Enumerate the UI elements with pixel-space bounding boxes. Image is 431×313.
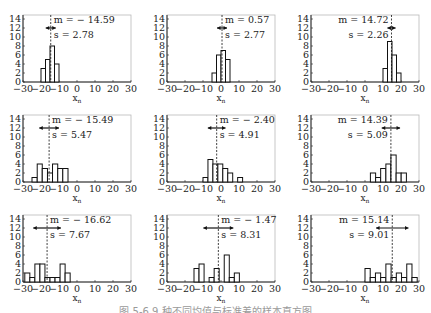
histogram-bar	[383, 69, 388, 83]
histogram-bar	[391, 155, 396, 182]
histogram-bar	[58, 169, 63, 183]
std-annotation: s = 2.78	[54, 29, 94, 40]
x-tick-label: 20	[395, 283, 407, 294]
arrow-head-right-icon	[392, 26, 396, 30]
x-tick-label: 20	[395, 183, 407, 194]
histogram-bar	[397, 73, 402, 82]
std-annotation: s = 9.01	[349, 229, 389, 240]
histogram-bar	[402, 278, 407, 283]
arrow-head-left-icon	[46, 26, 50, 30]
plot-frame	[167, 215, 275, 282]
histogram-bar	[40, 264, 45, 282]
histogram-panel-6: 02468101214−30−20−100102030xnm = 14.39s …	[297, 113, 425, 204]
histogram-bar	[32, 178, 37, 183]
x-tick-label: −10	[337, 283, 357, 294]
arrow-head-left-icon	[33, 226, 37, 230]
x-tick-label: 10	[233, 83, 245, 94]
std-annotation: s = 5.47	[52, 129, 92, 140]
plot-frame	[311, 15, 419, 82]
x-tick-label: 20	[251, 183, 263, 194]
histogram-bar	[55, 64, 60, 82]
histogram-bar	[217, 55, 222, 82]
histogram-bar	[223, 169, 228, 183]
histogram-bar	[50, 278, 55, 283]
histogram-panel-1: 02468101214−30−20−100102030xnm = − 14.59…	[9, 13, 137, 104]
mean-annotation: m = − 1.47	[221, 214, 276, 225]
y-tick-label: 14	[9, 13, 21, 24]
x-tick-label: 10	[233, 183, 245, 194]
x-tick-label: 30	[125, 283, 137, 294]
x-tick-label: 30	[413, 83, 425, 94]
std-annotation: s = 4.91	[220, 129, 260, 140]
histogram-bar	[46, 60, 51, 83]
x-tick-label: 10	[89, 83, 101, 94]
histogram-bar	[53, 164, 58, 182]
y-tick-label: 14	[297, 113, 309, 124]
x-tick-label: 30	[413, 283, 425, 294]
x-tick-label: −10	[193, 183, 213, 194]
histogram-bar	[218, 164, 223, 182]
arrow-head-right-icon	[397, 126, 401, 130]
histogram-bar	[238, 178, 243, 183]
histogram-bar	[381, 169, 386, 183]
histogram-bar	[229, 278, 234, 283]
x-tick-label: 30	[125, 83, 137, 94]
y-tick-label: 14	[153, 113, 165, 124]
x-axis-label: xn	[361, 193, 370, 204]
histogram-bar	[375, 273, 380, 282]
x-tick-label: 10	[233, 283, 245, 294]
histogram-bar	[55, 278, 60, 283]
histogram-panel-3: 02468101214−30−20−100102030xnm = 14.72s …	[297, 13, 425, 104]
x-tick-label: 20	[251, 283, 263, 294]
x-tick-label: 30	[269, 283, 281, 294]
histogram-bar	[213, 164, 218, 182]
x-axis-label: xn	[361, 93, 370, 104]
histogram-bar	[63, 169, 68, 183]
histogram-bar	[226, 60, 231, 83]
histogram-bar	[401, 173, 406, 182]
mean-annotation: m = − 2.40	[220, 114, 275, 125]
histogram-bar	[65, 273, 70, 282]
histogram-bar	[41, 69, 46, 83]
x-tick-label: 10	[89, 283, 101, 294]
x-tick-label: −10	[193, 283, 213, 294]
mean-annotation: m = − 14.59	[54, 14, 115, 25]
x-tick-label: 20	[107, 83, 119, 94]
x-tick-label: 20	[395, 83, 407, 94]
x-tick-label: 20	[107, 283, 119, 294]
x-tick-label: 30	[269, 83, 281, 94]
arrow-head-left-icon	[208, 126, 212, 130]
histogram-bar	[365, 269, 370, 283]
histogram-bar	[47, 173, 52, 182]
x-tick-label: 20	[107, 183, 119, 194]
std-annotation: s = 5.09	[348, 129, 388, 140]
mean-annotation: m = 15.14	[339, 214, 389, 225]
std-annotation: s = 2.26	[348, 29, 388, 40]
x-tick-label: −10	[337, 83, 357, 94]
x-tick-label: 20	[251, 83, 263, 94]
y-tick-label: 14	[153, 213, 165, 224]
histogram-bar	[35, 264, 40, 282]
histogram-bar	[386, 164, 391, 182]
histogram-panel-9: 02468101214−30−20−100102030xnm = 15.14s …	[297, 213, 425, 304]
histogram-bar	[228, 173, 233, 182]
arrow-head-left-icon	[39, 126, 43, 130]
figure-caption: 图 5-6 9 种不同均值与标准差的样本直方图	[0, 302, 431, 313]
y-tick-label: 14	[153, 13, 165, 24]
histogram-bar	[412, 278, 417, 283]
x-axis-label: xn	[217, 193, 226, 204]
histogram-grid-figure: 02468101214−30−20−100102030xnm = − 14.59…	[0, 0, 431, 313]
mean-annotation: m = − 16.62	[50, 214, 111, 225]
histogram-bar	[386, 264, 391, 282]
histogram-panel-8: 02468101214−30−20−100102030xnm = − 1.47s…	[153, 213, 281, 304]
x-tick-label: 30	[125, 183, 137, 194]
x-tick-label: 10	[377, 183, 389, 194]
x-tick-label: 10	[377, 283, 389, 294]
std-annotation: s = 2.77	[225, 29, 265, 40]
x-axis-label: xn	[217, 93, 226, 104]
histogram-bar	[199, 264, 204, 282]
y-tick-label: 14	[9, 113, 21, 124]
histogram-bar	[407, 264, 412, 282]
histogram-bar	[392, 55, 397, 82]
histogram-bar	[370, 173, 375, 182]
